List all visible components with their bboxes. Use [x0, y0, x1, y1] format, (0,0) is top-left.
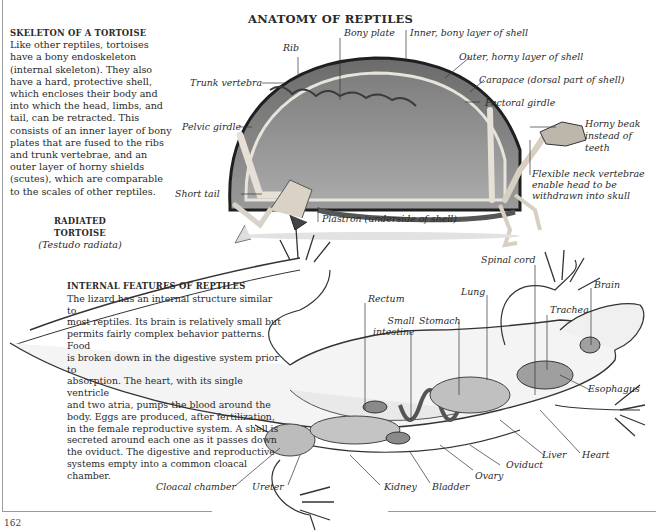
label-bony-plate: Bony plate [344, 27, 395, 39]
text-line: in the female reproductive system. A she… [67, 423, 282, 435]
text-line: into which the head, limbs, and [10, 100, 215, 112]
text-line: and two atria, pumps the blood around th… [67, 399, 282, 411]
text-line: absorption. The heart, with its single v… [67, 375, 282, 399]
text-line: and trunk vertebrae, and an [10, 149, 215, 161]
tortoise-heading: SKELETON OF A TORTOISE [10, 27, 215, 39]
text-line: permits fairly complex behavior patterns… [67, 328, 282, 352]
label-plastron: Plastron (underside of shell) [322, 213, 457, 225]
label-line: enable head to be [532, 179, 645, 190]
label-ureter: Ureter [252, 481, 284, 493]
text-line: (scutes), which are comparable [10, 173, 215, 185]
label-esophagus: Esophagus [588, 383, 640, 395]
text-line: which encloses their body and [10, 88, 215, 100]
text-line: systems empty into a common cloacal cham… [67, 458, 282, 482]
tortoise-text-block: SKELETON OF A TORTOISE Like other reptil… [10, 27, 215, 198]
label-pelvic-girdle: Pelvic girdle [182, 121, 241, 133]
label-line: Flexible neck vertebrae [532, 168, 645, 179]
label-liver: Liver [542, 449, 567, 461]
label-cloacal-chamber: Cloacal chamber [156, 481, 236, 493]
lizard-heading: INTERNAL FEATURES OF REPTILES [67, 281, 282, 293]
label-line: withdrawn into skull [532, 190, 645, 201]
text-line: (internal skeleton). They also [10, 64, 215, 76]
label-bladder: Bladder [432, 481, 470, 493]
label-spinal-cord: Spinal cord [481, 254, 535, 266]
text-line: body. Eggs are produced, after fertiliza… [67, 411, 282, 423]
label-pectoral-girdle: Pectoral girdle [485, 97, 555, 109]
text-line: The lizard has an internal structure sim… [67, 293, 282, 317]
text-line: have a hard, protective shell, [10, 76, 215, 88]
label-rib: Rib [283, 42, 299, 54]
text-line: the oviduct. The digestive and reproduct… [67, 446, 282, 458]
label-carapace: Carapace (dorsal part of shell) [479, 74, 624, 86]
text-line: most reptiles. Its brain is relatively s… [67, 316, 282, 328]
label-stomach: Stomach [419, 315, 461, 327]
text-line: have a bony endoskeleton [10, 51, 215, 63]
label-line: teeth [585, 142, 640, 154]
page-title: ANATOMY OF REPTILES [248, 12, 413, 26]
tortoise-caption: RADIATED TORTOISE (Testudo radiata) [30, 215, 130, 251]
label-trachea: Trachea [550, 304, 589, 316]
label-short-tail: Short tail [175, 188, 220, 200]
text-line: plates that are fused to the ribs [10, 137, 215, 149]
label-line: Small [373, 315, 415, 326]
label-outer-horny-layer: Outer, horny layer of shell [459, 51, 583, 63]
label-horny-beak: Horny beak instead of teeth [585, 118, 640, 154]
label-flexible-neck-vertebrae: Flexible neck vertebrae enable head to b… [532, 168, 645, 201]
text-line: secreted around each one as it passes do… [67, 434, 282, 446]
label-inner-bony-layer: Inner, bony layer of shell [410, 27, 528, 39]
lizard-text-block: INTERNAL FEATURES OF REPTILES The lizard… [67, 281, 282, 482]
label-small-intestine: Small intestine [373, 315, 415, 337]
label-oviduct: Oviduct [506, 459, 543, 471]
label-line: instead of [585, 130, 640, 142]
text-line: is broken down in the digestive system p… [67, 352, 282, 376]
text-line: Like other reptiles, tortoises [10, 39, 215, 51]
label-heart: Heart [582, 449, 610, 461]
label-lung: Lung [461, 286, 485, 298]
label-ovary: Ovary [475, 470, 503, 482]
text-line: outer layer of horny shields [10, 161, 215, 173]
caption-name: RADIATED TORTOISE [30, 215, 130, 239]
label-line: Horny beak [585, 118, 640, 130]
caption-scientific-name: (Testudo radiata) [30, 239, 130, 251]
label-trunk-vertebra: Trunk vertebra [190, 77, 262, 89]
label-line: intestine [373, 326, 415, 337]
label-rectum: Rectum [368, 293, 405, 305]
label-brain: Brain [594, 279, 620, 291]
label-kidney: Kidney [384, 481, 417, 493]
